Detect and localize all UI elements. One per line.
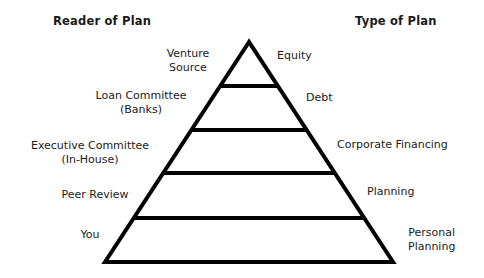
reader-line: Loan Committee: [86, 89, 196, 103]
reader-line: Executive Committee: [20, 139, 160, 153]
plan-label-personal-planning: Personal Planning: [408, 226, 455, 254]
plan-line: Corporate Financing: [337, 138, 448, 152]
plan-line: Debt: [306, 91, 333, 105]
reader-line: Source: [160, 61, 216, 75]
reader-line: (In-House): [20, 153, 160, 167]
plan-label-debt: Debt: [306, 91, 333, 105]
reader-label-venture-source: Venture Source: [160, 47, 216, 75]
plan-label-planning: Planning: [367, 185, 414, 199]
plan-line: Planning: [367, 185, 414, 199]
plan-label-equity: Equity: [277, 49, 312, 63]
reader-label-you: You: [75, 228, 105, 242]
plan-line: Planning: [408, 240, 455, 254]
reader-line: (Banks): [86, 103, 196, 117]
plan-line: Personal: [408, 226, 455, 240]
reader-label-loan-committee: Loan Committee (Banks): [86, 89, 196, 117]
plan-line: Equity: [277, 49, 312, 63]
reader-label-executive-committee: Executive Committee (In-House): [20, 139, 160, 167]
reader-line: Venture: [160, 47, 216, 61]
plan-label-corporate-financing: Corporate Financing: [337, 138, 448, 152]
reader-line: Peer Review: [50, 188, 140, 202]
reader-line: You: [75, 228, 105, 242]
reader-label-peer-review: Peer Review: [50, 188, 140, 202]
